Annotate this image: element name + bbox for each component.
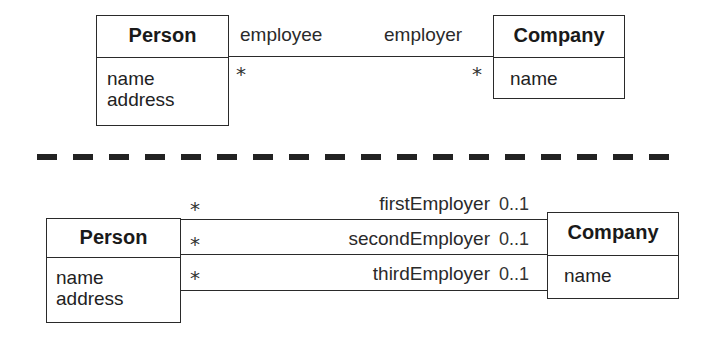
- top-person-divider: [97, 57, 228, 58]
- top-person-class: Person name address: [96, 15, 229, 126]
- bottom-person-attr-address: address: [56, 288, 124, 309]
- bottom-person-divider: [47, 257, 180, 258]
- top-role-employer: employer: [384, 24, 462, 46]
- association-line-first: [180, 219, 548, 220]
- association-line-third: [180, 290, 548, 291]
- bottom-person-class: Person name address: [46, 218, 181, 323]
- top-person-attr-name: name: [107, 68, 155, 89]
- bottom-company-attr-name: name: [564, 265, 612, 286]
- top-person-attr-address: address: [107, 89, 175, 110]
- bottom-company-divider: [548, 255, 678, 256]
- top-association-line: [228, 56, 494, 57]
- bottom-company-class-name: Company: [548, 221, 678, 244]
- top-person-multiplicity: *: [236, 64, 246, 84]
- bottom-person-attr-name: name: [56, 267, 104, 288]
- role-third-employer: thirdEmployer: [373, 263, 490, 285]
- dashed-separator: [37, 154, 685, 160]
- second-company-multiplicity: 0..1: [499, 229, 529, 250]
- top-company-multiplicity: *: [472, 64, 482, 84]
- top-company-class-name: Company: [494, 24, 624, 47]
- role-second-employer: secondEmployer: [348, 228, 490, 250]
- third-company-multiplicity: 0..1: [499, 264, 529, 285]
- top-role-employee: employee: [240, 24, 322, 46]
- first-person-multiplicity: *: [190, 199, 200, 219]
- bottom-person-class-name: Person: [47, 226, 180, 249]
- top-company-attr-name: name: [510, 68, 558, 89]
- association-line-second: [180, 254, 548, 255]
- first-company-multiplicity: 0..1: [499, 194, 529, 215]
- second-person-multiplicity: *: [190, 234, 200, 254]
- bottom-company-class: Company name: [547, 212, 679, 299]
- third-person-multiplicity: *: [190, 268, 200, 288]
- top-person-class-name: Person: [97, 24, 228, 47]
- role-first-employer: firstEmployer: [379, 193, 490, 215]
- top-company-divider: [494, 57, 624, 58]
- top-company-class: Company name: [493, 15, 625, 99]
